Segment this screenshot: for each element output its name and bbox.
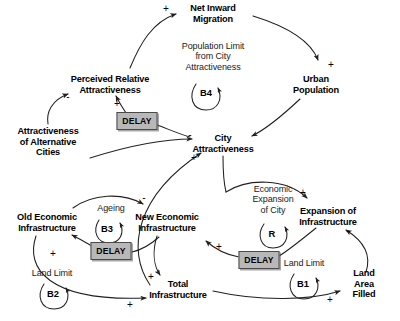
link-delay-to-new-infrastructure	[206, 241, 239, 257]
polarity-delay-to-old-infrastructure: +	[50, 249, 56, 259]
loop-label-b4: B4	[200, 87, 212, 98]
loop-label-b3: B3	[101, 223, 113, 234]
polarity-land-area-filled-to-expansion: -	[346, 226, 349, 236]
node-new-economic-infrastructure: New Economic Infrastructure	[135, 212, 199, 233]
link-city-attractiveness-to-delay	[157, 125, 190, 137]
link-total-infrastructure-to-land-area-filled	[213, 291, 340, 299]
polarity-migration-to-urban-population: +	[328, 60, 334, 70]
node-net-inward-migration: Net Inward Migration	[190, 3, 235, 24]
loop-label-b1: B1	[297, 278, 309, 289]
link-city-attractiveness-stem	[223, 156, 226, 192]
delay-box-expansion: DELAY	[239, 251, 280, 269]
node-urban-population: Urban Population	[293, 74, 339, 95]
delay-box-ageing: DELAY	[91, 242, 132, 260]
node-city-attractiveness: City Attractiveness	[192, 133, 253, 154]
link-alternative-cities-to-city-attractiveness	[90, 139, 192, 158]
node-expansion-of-infrastructure: Expansion of Infrastructure	[299, 206, 357, 227]
link-land-area-filled-to-expansion	[346, 230, 368, 272]
note-land-limit-b2: Land Limit	[32, 268, 73, 278]
node-attractiveness-of-alternative-cities: Attractiveness of Alternative Cities	[17, 126, 78, 158]
polarity-new-infrastructure-to-total: +	[148, 272, 154, 282]
loop-label-r: R	[269, 228, 276, 239]
node-perceived-relative-attractiveness: Perceived Relative Attractiveness	[71, 74, 150, 95]
polarity-perceived-attractiveness-to-migration: +	[163, 4, 169, 14]
polarity-total-infrastructure-to-city-attractiveness: +	[191, 153, 197, 163]
polarity-total-infrastructure-to-land-area-filled: +	[327, 295, 333, 305]
link-perceived-attractiveness-to-migration	[130, 14, 176, 68]
polarity-old-to-new-infrastructure: -	[142, 193, 145, 203]
link-urban-population-to-city-attractiveness	[252, 99, 300, 136]
node-land-area-filled: Land Area Filled	[346, 268, 382, 300]
polarity-delay-to-perceived-attractiveness: +	[114, 99, 120, 109]
note-population-limit: Population Limit from City Attractivenes…	[182, 41, 244, 72]
polarity-delay-to-new-infrastructure: +	[216, 242, 222, 252]
note-land-limit-b1: Land Limit	[284, 258, 325, 268]
polarity-old-infrastructure-to-total: +	[127, 300, 133, 310]
link-alternative-cities-to-perceived-attractiveness	[48, 94, 68, 124]
delay-box-attractiveness: DELAY	[117, 112, 158, 130]
note-economic-expansion-of-city: Economic Expansion of City	[252, 184, 293, 215]
causal-loop-diagram: Net Inward Migration Urban Population Pe…	[0, 0, 400, 321]
polarity-alternative-cities-to-perceived-attractiveness: -	[66, 92, 69, 102]
link-new-infrastructure-to-total-infrastructure	[154, 236, 160, 275]
note-ageing: Ageing	[97, 203, 124, 213]
node-total-infrastructure: Total Infrastructure	[149, 279, 207, 300]
node-old-economic-infrastructure: Old Economic Infrastructure	[17, 212, 77, 233]
link-delay-ageing-to-old-infrastructure	[72, 235, 92, 246]
polarity-city-attractiveness-to-expansion: +	[300, 188, 306, 198]
loop-label-b2: B2	[47, 288, 59, 299]
link-migration-to-urban-population	[253, 16, 318, 60]
polarity-alternative-cities-to-city-attractiveness: -	[188, 130, 191, 140]
